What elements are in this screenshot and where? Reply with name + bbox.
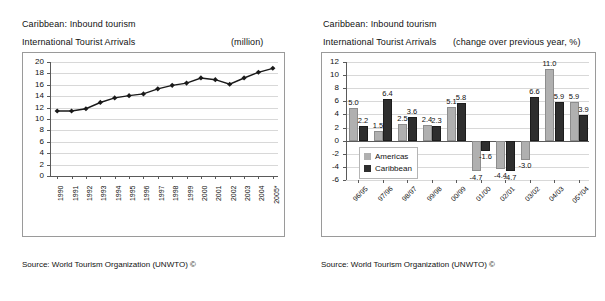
right-x-axis-tick-label: 02/01 xyxy=(494,185,516,207)
line-data-point xyxy=(98,100,103,105)
right-y-axis-tick-label: 8 xyxy=(322,84,339,92)
left-x-axis-tick-label: 2000 xyxy=(200,186,207,226)
left-x-tickmark xyxy=(172,176,173,179)
left-x-tickmark xyxy=(230,176,231,179)
bar-value-label: -1.6 xyxy=(474,152,498,161)
left-x-tickmark xyxy=(57,176,58,179)
legend-item: Caribbean xyxy=(364,163,412,175)
bar-value-label: -4.7 xyxy=(464,173,488,182)
right-x-axis-tick-label: 97/96 xyxy=(372,185,394,207)
left-x-axis-tick-label: 2005* xyxy=(272,186,279,226)
left-x-tickmark xyxy=(72,176,73,179)
right-y-axis-tick-label: -4 xyxy=(322,163,339,171)
bar-americas xyxy=(521,141,530,161)
right-plot-frame: -6-4-20246810125.01.52.52.45.1-4.7-4.4-3… xyxy=(321,52,596,237)
left-x-tickmark xyxy=(201,176,202,179)
right-x-tickmark xyxy=(481,180,482,183)
left-chart-title-line1: Caribbean: Inbound tourism xyxy=(22,19,136,29)
left-x-tickmark xyxy=(86,176,87,179)
left-x-axis-tick-label: 1994 xyxy=(114,186,121,226)
left-x-axis-tick-label: 2001 xyxy=(215,186,222,226)
bar-value-label: 11.0 xyxy=(538,59,562,68)
right-y-tickmark xyxy=(343,180,346,181)
line-data-point xyxy=(227,82,232,87)
figure-page: Caribbean: Inbound tourism International… xyxy=(0,0,605,301)
left-x-axis-tick-label: 1997 xyxy=(157,186,164,226)
left-x-tickmark xyxy=(215,176,216,179)
bar-caribbean xyxy=(383,99,392,141)
line-data-point xyxy=(141,91,146,96)
legend-swatch-caribbean xyxy=(364,165,371,172)
left-chart-title-line2: International Tourist Arrivals xyxy=(22,37,135,47)
bar-americas xyxy=(398,124,407,140)
right-chart-title-line2: International Tourist Arrivals xyxy=(323,37,436,47)
legend-label: Caribbean xyxy=(375,164,412,173)
line-data-point xyxy=(55,108,60,113)
right-chart-panel: Caribbean: Inbound tourism International… xyxy=(301,0,603,301)
bar-caribbean xyxy=(579,115,588,141)
bar-value-label: 6.6 xyxy=(523,87,547,96)
legend-label: Americas xyxy=(375,152,408,161)
legend-item: Americas xyxy=(364,151,412,163)
right-y-axis-tick-label: -6 xyxy=(322,176,339,184)
bar-caribbean xyxy=(457,103,466,141)
line-data-point xyxy=(83,106,88,111)
bar-americas xyxy=(423,125,432,141)
right-y-axis-tick-label: 0 xyxy=(322,137,339,145)
right-x-tickmark xyxy=(383,180,384,183)
right-x-axis-tick-label: 98/97 xyxy=(396,185,418,207)
left-x-tickmark xyxy=(258,176,259,179)
bar-value-label: 5.9 xyxy=(547,92,571,101)
line-data-point xyxy=(155,86,160,91)
right-chart-title-line1: Caribbean: Inbound tourism xyxy=(323,19,437,29)
line-data-point xyxy=(198,75,203,80)
bar-value-label: -4.7 xyxy=(498,173,522,182)
left-x-axis-tick-label: 1996 xyxy=(143,186,150,226)
left-x-tickmark xyxy=(115,176,116,179)
right-x-axis-tick-label: 00/99 xyxy=(445,185,467,207)
right-zero-axis xyxy=(346,141,589,142)
line-data-point xyxy=(213,77,218,82)
left-x-axis-tick-label: 1990 xyxy=(57,186,64,226)
line-data-point xyxy=(170,83,175,88)
left-x-axis-tick-label: 1995 xyxy=(129,186,136,226)
right-y-axis xyxy=(346,62,347,180)
left-x-tickmark xyxy=(273,176,274,179)
bar-caribbean xyxy=(481,141,490,152)
right-x-axis-tick-label: 05*/04 xyxy=(568,185,590,207)
right-x-tickmark xyxy=(432,180,433,183)
bar-value-label: 3.9 xyxy=(572,105,596,114)
line-data-point xyxy=(256,70,261,75)
bar-caribbean xyxy=(506,141,515,172)
left-x-axis-tick-label: 1998 xyxy=(172,186,179,226)
right-x-tickmark xyxy=(407,180,408,183)
bar-caribbean xyxy=(359,126,368,140)
left-x-tickmark xyxy=(244,176,245,179)
legend-swatch-americas xyxy=(364,153,371,160)
right-x-axis-tick-label: 03/02 xyxy=(519,185,541,207)
line-data-point xyxy=(112,95,117,100)
right-y-axis-tick-label: 6 xyxy=(322,97,339,105)
right-y-axis-tick-label: 12 xyxy=(322,58,339,66)
left-x-tickmark xyxy=(143,176,144,179)
left-chart-source: Source: World Tourism Organization (UNWT… xyxy=(22,260,196,269)
bar-americas xyxy=(545,69,554,141)
chart-legend: AmericasCaribbean xyxy=(359,147,418,179)
line-data-point xyxy=(184,80,189,85)
bar-value-label: 2.2 xyxy=(351,116,375,125)
bar-value-label: 5.0 xyxy=(342,98,366,107)
line-data-point xyxy=(69,108,74,113)
left-x-axis-tick-label: 2002 xyxy=(229,186,236,226)
right-x-tickmark xyxy=(358,180,359,183)
left-x-axis-tick-label: 2003 xyxy=(244,186,251,226)
right-x-axis-tick-label: 01/00 xyxy=(470,185,492,207)
bar-value-label: 3.6 xyxy=(400,107,424,116)
right-x-axis-tick-label: 99/98 xyxy=(421,185,443,207)
right-x-axis-tick-label: 04/03 xyxy=(543,185,565,207)
left-x-axis-tick-label: 1991 xyxy=(71,186,78,226)
bar-americas xyxy=(374,131,383,141)
right-y-axis-tick-label: -2 xyxy=(322,150,339,158)
right-chart-unit-label: (change over previous year, %) xyxy=(453,37,581,47)
right-y-axis-tick-label: 4 xyxy=(322,110,339,118)
left-chart-unit-label: (million) xyxy=(231,37,263,47)
